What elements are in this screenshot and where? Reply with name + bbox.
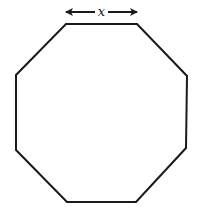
octagon-shape <box>16 24 187 202</box>
side-length-label: x <box>98 4 106 19</box>
octagon-diagram: x <box>0 0 197 214</box>
